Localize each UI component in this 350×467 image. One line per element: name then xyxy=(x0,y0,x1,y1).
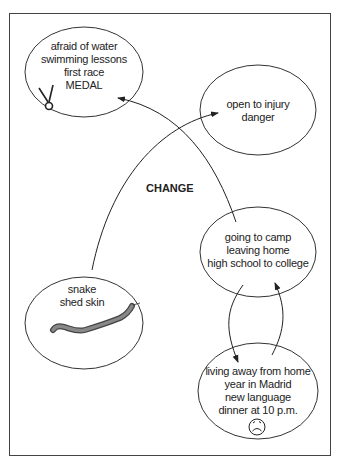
node-text-line: new language xyxy=(198,391,318,404)
node-text-line: shed skin xyxy=(42,296,122,309)
node-text-line: MEDAL xyxy=(28,79,140,92)
node-text-line: dinner at 10 p.m. xyxy=(198,404,318,417)
node-text-line: afraid of water xyxy=(28,40,140,53)
node-text-line: living away from home xyxy=(198,365,318,378)
node-text-line: year in Madrid xyxy=(198,378,318,391)
node-text-line: leaving home xyxy=(200,244,316,257)
sad-face-icon xyxy=(249,419,265,435)
node-text-line: going to camp xyxy=(200,231,316,244)
node-swimming: afraid of water swimming lessons first r… xyxy=(28,40,140,92)
change-label: CHANGE xyxy=(146,182,194,194)
node-text-line: first race xyxy=(28,66,140,79)
node-snake: snake shed skin xyxy=(42,283,122,309)
node-text-line: swimming lessons xyxy=(28,53,140,66)
node-camp: going to camp leaving home high school t… xyxy=(200,231,316,270)
node-injury: open to injury danger xyxy=(200,98,316,124)
node-text-line: snake xyxy=(42,283,122,296)
arrow-camp-to-madrid xyxy=(229,285,243,362)
node-text-line: high school to college xyxy=(200,257,316,270)
node-text-line: open to injury xyxy=(200,98,316,111)
node-text-line: danger xyxy=(200,111,316,124)
node-madrid: living away from home year in Madrid new… xyxy=(198,365,318,417)
